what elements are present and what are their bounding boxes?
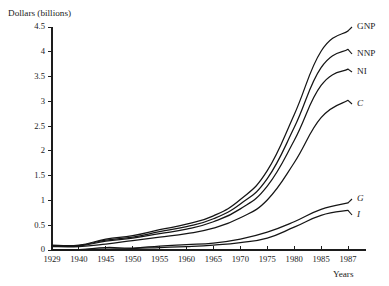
y-tick-label: 0.5 bbox=[34, 220, 45, 230]
series-label-ni: NI bbox=[357, 66, 367, 76]
y-tick-label: 0 bbox=[41, 244, 45, 254]
series-leader-lines bbox=[348, 27, 352, 215]
leader-line-ni bbox=[348, 69, 352, 72]
series-label-nnp: NNP bbox=[357, 48, 375, 58]
y-axis-ticks bbox=[48, 27, 52, 250]
leader-line-gnp bbox=[348, 27, 352, 31]
leader-line-c bbox=[348, 100, 352, 104]
x-tick-label: 1929 bbox=[43, 254, 60, 264]
x-tick-label: 1987 bbox=[339, 254, 357, 264]
series-label-c: C bbox=[357, 98, 364, 108]
x-axis-title: Years bbox=[333, 269, 354, 279]
y-axis-tick-labels: 00.511.522.533.544.5 bbox=[34, 21, 45, 254]
x-tick-label: 1950 bbox=[124, 254, 141, 264]
y-tick-label: 4 bbox=[41, 46, 46, 56]
leader-line-nnp bbox=[348, 49, 352, 54]
y-tick-label: 3 bbox=[41, 96, 45, 106]
series-line-gnp bbox=[52, 31, 348, 246]
y-tick-label: 2.5 bbox=[34, 121, 45, 131]
leader-line-i bbox=[348, 210, 352, 215]
leader-line-g bbox=[348, 199, 352, 203]
x-tick-label: 1945 bbox=[97, 254, 114, 264]
y-tick-label: 1.5 bbox=[34, 170, 45, 180]
series-labels: GNPNNPNICGI bbox=[356, 21, 375, 219]
gnp-line-chart: 00.511.522.533.544.5 1929194019451950195… bbox=[0, 0, 389, 286]
series-label-g: G bbox=[357, 193, 364, 203]
x-tick-label: 1970 bbox=[232, 254, 249, 264]
x-axis-tick-labels: 1929194019451950195519601965197019751980… bbox=[43, 254, 357, 264]
series-label-gnp: GNP bbox=[357, 21, 375, 31]
x-tick-label: 1940 bbox=[70, 254, 87, 264]
series-label-i: I bbox=[356, 209, 361, 219]
x-tick-label: 1965 bbox=[205, 254, 222, 264]
y-tick-label: 1 bbox=[41, 195, 45, 205]
y-axis-title: Dollars (billions) bbox=[8, 8, 71, 18]
x-tick-label: 1975 bbox=[259, 254, 276, 264]
y-tick-label: 4.5 bbox=[34, 21, 45, 31]
x-tick-label: 1955 bbox=[151, 254, 168, 264]
y-tick-label: 3.5 bbox=[34, 71, 45, 81]
series-line-ni bbox=[52, 69, 348, 246]
x-tick-label: 1985 bbox=[312, 254, 329, 264]
series-line-c bbox=[52, 100, 348, 246]
series-lines bbox=[52, 31, 348, 250]
y-tick-label: 2 bbox=[41, 145, 45, 155]
chart-container: 00.511.522.533.544.5 1929194019451950195… bbox=[0, 0, 389, 286]
x-tick-label: 1980 bbox=[286, 254, 303, 264]
x-tick-label: 1960 bbox=[178, 254, 195, 264]
